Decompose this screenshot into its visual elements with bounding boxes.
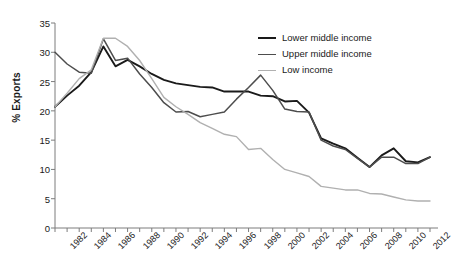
plot-area	[55, 23, 430, 228]
x-tick-label: 1998	[261, 230, 282, 251]
y-tick-label: 5	[28, 193, 50, 204]
series-line-low-income	[55, 38, 430, 201]
legend-label-upper-middle-income: Upper middle income	[282, 49, 372, 59]
y-tick-label: 35	[28, 18, 50, 29]
legend: Lower middle income Upper middle income …	[258, 31, 372, 79]
x-tick-label: 1992	[189, 230, 210, 251]
legend-item-upper-middle-income: Upper middle income	[258, 47, 372, 61]
x-tick-label: 2008	[382, 230, 403, 251]
x-tick-label: 1996	[237, 230, 258, 251]
x-tick-label: 2006	[358, 230, 379, 251]
y-tick-label: 30	[28, 47, 50, 58]
x-tick-label: 2002	[310, 230, 331, 251]
y-axis-title: % Exports	[11, 58, 22, 138]
x-tick-label: 2004	[334, 230, 355, 251]
y-tick-label: 25	[28, 76, 50, 87]
legend-label-lower-middle-income: Lower middle income	[282, 33, 372, 43]
y-tick-label: 10	[28, 164, 50, 175]
x-axis-tick-labels: 1982198419861988199019921994199619982000…	[55, 230, 450, 276]
x-tick-label: 2000	[286, 230, 307, 251]
y-tick-label: 0	[28, 223, 50, 234]
x-tick-label: 1984	[92, 230, 113, 251]
x-tick-label: 2012	[431, 230, 452, 251]
legend-item-lower-middle-income: Lower middle income	[258, 31, 372, 45]
legend-label-low-income: Low income	[282, 65, 333, 75]
series-line-lower-middle-income	[55, 46, 430, 167]
y-axis-tick-labels: 05101520253035	[24, 0, 50, 276]
legend-item-low-income: Low income	[258, 63, 372, 77]
x-tick-label: 1988	[140, 230, 161, 251]
y-tick-label: 20	[28, 105, 50, 116]
x-tick-label: 2010	[407, 230, 428, 251]
x-tick-label: 1986	[116, 230, 137, 251]
x-tick-label: 1990	[165, 230, 186, 251]
y-tick-label: 15	[28, 135, 50, 146]
x-tick-label: 1994	[213, 230, 234, 251]
legend-swatch-lower-middle-income	[258, 37, 276, 39]
legend-swatch-upper-middle-income	[258, 54, 276, 55]
plot-svg	[55, 23, 430, 228]
x-tick-label: 1982	[68, 230, 89, 251]
legend-swatch-low-income	[258, 70, 276, 71]
